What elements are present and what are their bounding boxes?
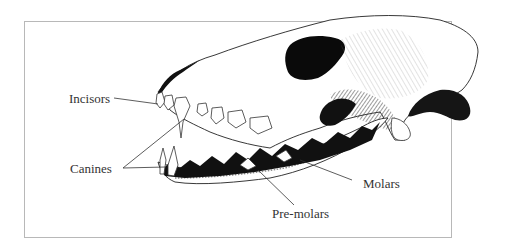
label-molars: Molars [363,177,400,190]
skull-illustration [0,0,506,250]
leader-molars [300,160,352,180]
label-canines: Canines [70,162,112,175]
label-incisors: Incisors [69,92,110,105]
cranium [158,16,478,149]
leader-incisors [114,98,158,104]
label-premolars: Pre-molars [272,207,329,220]
